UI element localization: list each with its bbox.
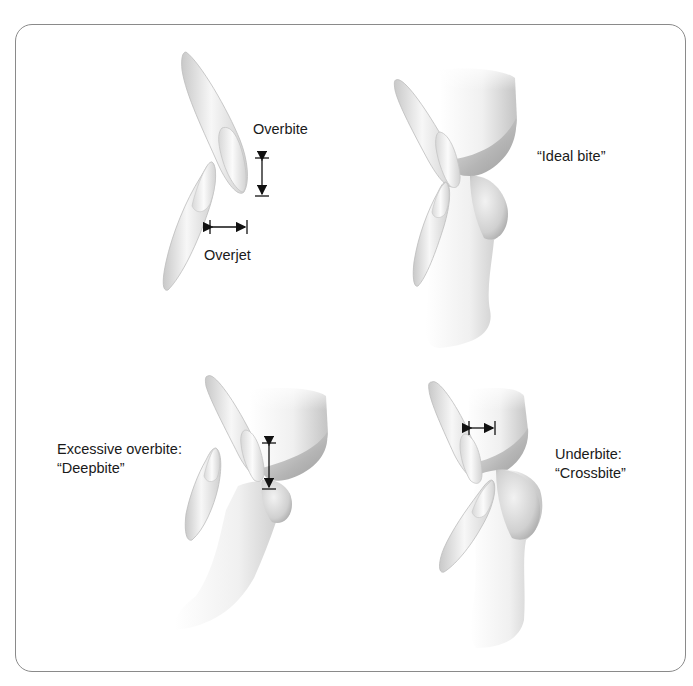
- deepbite-label: “Deepbite”: [57, 459, 125, 477]
- panel-ideal-bite: [394, 60, 530, 348]
- excessive-overbite-label: Excessive overbite:: [57, 440, 182, 458]
- overbite-label: Overbite: [253, 120, 308, 138]
- overjet-label: Overjet: [204, 246, 251, 264]
- crossbite-label: “Crossbite”: [555, 464, 626, 482]
- panel-deepbite: [175, 376, 340, 630]
- underbite-label: Underbite:: [555, 445, 622, 463]
- panel-crossbite: [429, 380, 550, 648]
- ideal-bite-label: “Ideal bite”: [537, 147, 606, 165]
- overbite-arrow: [255, 158, 269, 196]
- dental-bite-illustration: [0, 0, 693, 686]
- overjet-arrow: [210, 220, 247, 234]
